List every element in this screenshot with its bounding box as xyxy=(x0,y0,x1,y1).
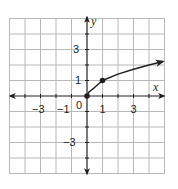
y-tick-label: 1 xyxy=(75,74,81,86)
y-axis-label: y xyxy=(90,14,97,28)
y-tick-label: −3 xyxy=(63,136,76,148)
x-tick-label: −3 xyxy=(32,103,45,115)
y-tick-label: 3 xyxy=(73,43,79,55)
x-axis-label: x xyxy=(152,80,159,94)
point-origin xyxy=(84,93,90,99)
graph: y x 0 −3 −1 1 3 3 1 −3 xyxy=(0,0,178,189)
x-tick-label: 1 xyxy=(100,103,106,115)
sqrt-curve xyxy=(87,62,163,97)
x-tick-label: −1 xyxy=(57,103,70,115)
origin-label: 0 xyxy=(76,99,82,111)
point-1-1 xyxy=(100,78,106,84)
x-tick-label: 3 xyxy=(131,103,137,115)
